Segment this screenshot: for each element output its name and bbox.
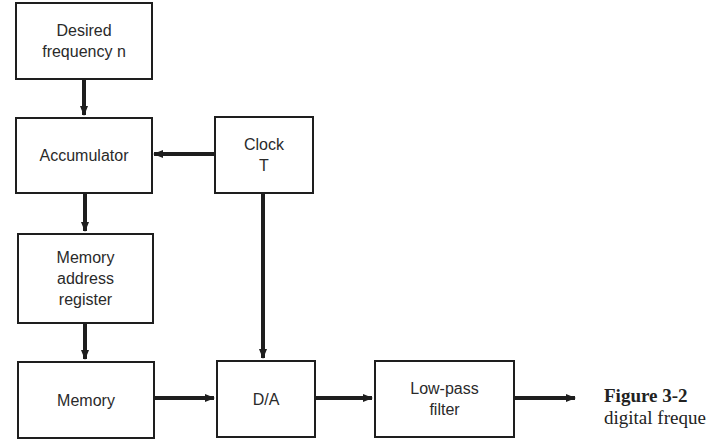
block-label: Clock T [244,134,284,176]
block-label: D/A [253,389,280,410]
block-memory-address-register: Memory address register [17,233,154,324]
block-label: Memory [57,390,115,411]
block-clock: Clock T [214,116,314,194]
block-label: Low-pass filter [410,378,478,420]
block-label: Desired frequency n [42,20,126,62]
caption-text: digital freque [604,407,706,429]
block-accumulator: Accumulator [15,117,153,194]
block-label: Accumulator [40,145,129,166]
block-low-pass-filter: Low-pass filter [374,360,515,438]
block-desired-frequency: Desired frequency n [15,2,153,80]
block-label: Memory address register [57,247,115,310]
figure-caption: Figure 3-2 digital freque [604,385,706,429]
block-da-converter: D/A [216,360,316,438]
figure-label: Figure 3-2 [604,385,688,406]
block-memory: Memory [17,361,155,439]
